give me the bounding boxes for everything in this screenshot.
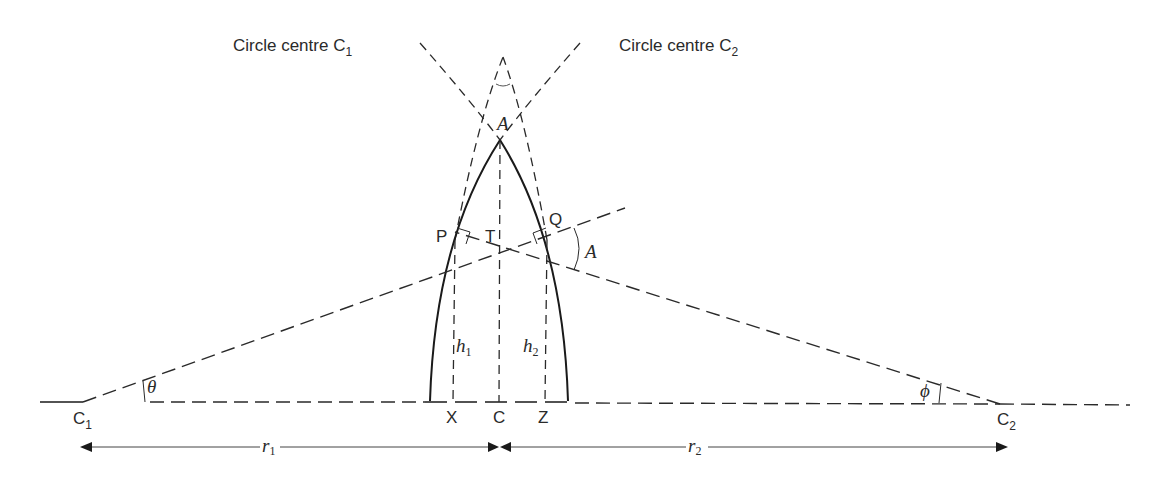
label-t: T [485,227,495,246]
h2-line [545,240,547,402]
label-side-angle: A [583,241,597,262]
right-arch-curve [500,140,568,401]
angle-a-arc [574,228,579,270]
h1-line [453,240,455,402]
label-c1: C1 [73,409,92,432]
label-c2: C2 [997,410,1016,433]
left-arch-curve [430,140,500,401]
apex-dashed-lines [455,57,547,240]
label-h1: h1 [456,335,472,359]
label-theta: θ [147,376,156,397]
label-q: Q [549,210,562,229]
label-h2: h2 [523,335,539,359]
label-apex-angle: A [495,113,509,134]
label-p: P [436,227,447,246]
dimension-arrows [80,442,1008,452]
baseline [40,402,1130,405]
radius-line-c1 [83,208,625,402]
arrow-left-icon [500,442,511,452]
arrow-right-icon [488,442,499,452]
right-angle-marks [457,228,546,244]
label-circle-c1: Circle centre C1 [233,36,352,59]
theta-arc [143,381,145,402]
arrow-right-icon [996,442,1008,452]
label-circle-c2: Circle centre C2 [619,36,738,59]
arch-diagram: Circle centre C1 Circle centre C2 A P Q … [0,0,1168,485]
label-x: X [446,408,457,427]
centre-line [499,140,500,402]
phi-arc [939,383,941,403]
radius-line-c2 [455,232,1000,404]
arrow-left-icon [80,442,92,452]
label-phi: ϕ [920,380,930,401]
label-c: C [493,408,505,427]
label-z: Z [538,408,548,427]
